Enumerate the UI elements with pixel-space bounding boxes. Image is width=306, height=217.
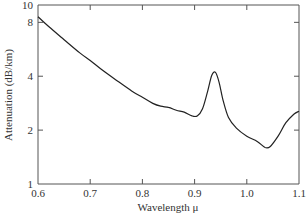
y-tick-label: 8 xyxy=(28,16,34,28)
x-tick-label: 1.1 xyxy=(292,187,306,199)
attenuation-chart: 0.60.70.80.91.01.1 124810 Wavelength μ A… xyxy=(0,0,306,217)
y-tick-label: 10 xyxy=(22,0,34,11)
y-tick-label: 4 xyxy=(28,70,34,82)
x-tick-label: 0.9 xyxy=(188,187,202,199)
x-axis-ticks: 0.60.70.80.91.01.1 xyxy=(31,5,306,199)
x-tick-label: 0.7 xyxy=(83,187,97,199)
attenuation-curve xyxy=(38,17,299,148)
y-tick-label: 2 xyxy=(28,124,34,136)
x-tick-label: 0.8 xyxy=(136,187,150,199)
x-axis-label: Wavelength μ xyxy=(138,201,199,213)
y-tick-label: 1 xyxy=(28,178,34,190)
y-axis-label: Attenuation (dB/km) xyxy=(2,49,15,141)
y-axis-ticks: 124810 xyxy=(22,0,299,190)
x-tick-label: 0.6 xyxy=(31,187,45,199)
plot-frame xyxy=(38,5,299,184)
x-tick-label: 1.0 xyxy=(240,187,254,199)
